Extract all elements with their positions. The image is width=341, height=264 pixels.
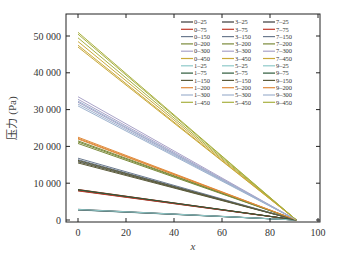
y-tick-label: 30 000 [34,104,62,115]
x-tick-label: 60 [217,227,227,238]
legend-label: 5–25 [235,62,248,69]
legend-label: 7–75 [276,26,289,33]
legend-label: 5–450 [235,99,251,106]
legend-label: 5–200 [235,84,251,91]
legend-label: 1–75 [194,69,207,76]
legend-label: 3–300 [235,47,251,54]
series-line [78,143,296,220]
legend-label: 1–25 [194,62,207,69]
x-tick-label: 40 [169,227,179,238]
x-tick-label: 0 [76,227,81,238]
legend-label: 7–25 [276,18,289,25]
x-tick-label: 100 [311,227,326,238]
legend-label: 9–25 [276,62,289,69]
x-tick-label: 20 [121,227,131,238]
legend-label: 5–300 [235,91,251,98]
legend-label: 3–200 [235,40,251,47]
legend-label: 0–200 [194,40,210,47]
legend-label: 7–300 [276,47,292,54]
legend-label: 9–450 [276,99,292,106]
legend-label: 0–25 [194,18,207,25]
series-line [78,138,296,220]
legend-label: 0–75 [194,26,207,33]
y-tick-label: 0 [56,215,61,226]
legend-label: 3–75 [235,26,248,33]
series-line [78,101,296,220]
series-line [78,97,296,220]
legend-label: 1–150 [194,77,210,84]
legend-label: 5–150 [235,77,251,84]
legend-label: 7–200 [276,40,292,47]
x-axis-label: x [190,240,196,252]
x-tick-label: 80 [265,227,275,238]
legend-label: 7–450 [276,55,292,62]
y-tick-label: 20 000 [34,141,62,152]
legend-label: 9–75 [276,69,289,76]
legend-label: 0–150 [194,33,210,40]
y-tick-label: 50 000 [34,31,62,42]
legend-label: 7–150 [276,33,292,40]
legend-label: 3–25 [235,18,248,25]
plot-lines [78,32,296,220]
legend-label: 0–300 [194,47,210,54]
y-tick-label: 40 000 [34,67,62,78]
legend-label: 9–150 [276,77,292,84]
line-chart: 020406080100 010 00020 00030 00040 00050… [0,0,341,264]
legend-label: 1–200 [194,84,210,91]
legend-label: 9–300 [276,91,292,98]
y-axis-label: 压力 (Pa) [6,96,19,139]
legend-label: 1–300 [194,91,210,98]
legend-label: 3–150 [235,33,251,40]
legend: 0–250–750–1500–2000–3000–4501–251–751–15… [181,18,292,105]
y-tick-label: 10 000 [34,178,62,189]
legend-label: 9–200 [276,84,292,91]
series-line [78,106,296,220]
legend-label: 5–75 [235,69,248,76]
legend-label: 3–450 [235,55,251,62]
legend-label: 0–450 [194,55,210,62]
legend-label: 1–450 [194,99,210,106]
